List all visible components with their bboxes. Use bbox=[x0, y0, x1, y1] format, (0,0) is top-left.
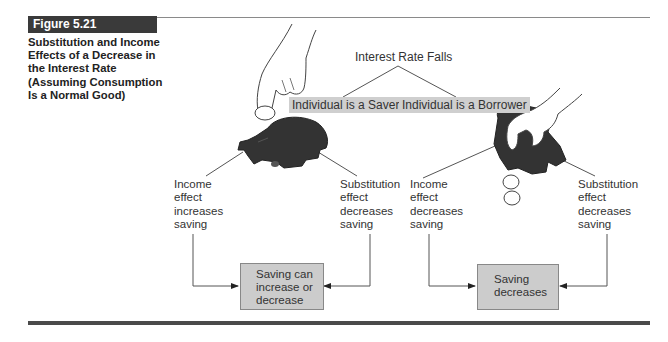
effect-line: saving bbox=[410, 218, 463, 231]
arrow-saver-substitution bbox=[324, 234, 370, 286]
borrower-income-effect: Income effect decreases saving bbox=[410, 178, 463, 232]
effect-line: saving bbox=[578, 218, 638, 231]
result-line: Saving can bbox=[256, 268, 323, 281]
effect-line: Income bbox=[174, 178, 223, 191]
effect-line: saving bbox=[174, 218, 223, 231]
borrower-result-box: Saving decreases bbox=[477, 264, 559, 310]
result-line: decreases bbox=[494, 286, 558, 299]
arrow-borrower-substitution bbox=[560, 234, 607, 286]
branch-label-borrower: Individual is a Borrower bbox=[399, 97, 530, 113]
connector-root-saver bbox=[343, 66, 398, 97]
effect-line: Substitution bbox=[578, 178, 638, 191]
effect-line: decreases bbox=[410, 205, 463, 218]
connector-saver-income bbox=[206, 152, 243, 176]
arrow-borrower-income bbox=[429, 234, 475, 286]
borrower-substitution-effect: Substitution effect decreases saving bbox=[578, 178, 638, 232]
branch-label-saver: Individual is a Saver bbox=[289, 97, 402, 113]
effect-line: decreases bbox=[578, 205, 638, 218]
saver-income-effect: Income effect increases saving bbox=[174, 178, 223, 232]
effect-line: effect bbox=[340, 191, 400, 204]
effect-line: increases bbox=[174, 205, 223, 218]
effect-line: saving bbox=[340, 218, 400, 231]
saver-result-box: Saving can increase or decrease bbox=[240, 263, 324, 310]
result-line: decrease bbox=[256, 294, 323, 307]
connector-borrower-income bbox=[423, 146, 495, 178]
saver-piggy-bank-icon bbox=[238, 117, 328, 168]
result-line: Saving bbox=[494, 273, 558, 286]
connector-saver-substitution bbox=[318, 152, 357, 176]
saver-substitution-effect: Substitution effect decreases saving bbox=[340, 178, 400, 232]
effect-line: Income bbox=[410, 178, 463, 191]
effect-line: effect bbox=[410, 191, 463, 204]
borrower-coin-icon bbox=[504, 191, 520, 205]
arrow-saver-income bbox=[193, 234, 238, 286]
effect-line: effect bbox=[578, 191, 638, 204]
effect-line: effect bbox=[174, 191, 223, 204]
result-line: increase or bbox=[256, 281, 323, 294]
saver-coin-icon bbox=[255, 106, 275, 120]
root-node-interest-rate-falls: Interest Rate Falls bbox=[355, 50, 452, 64]
connector-root-borrower bbox=[398, 66, 456, 97]
borrower-coin-icon bbox=[503, 175, 519, 189]
effect-line: decreases bbox=[340, 205, 400, 218]
effect-line: Substitution bbox=[340, 178, 400, 191]
diagram-graphics bbox=[0, 0, 668, 342]
